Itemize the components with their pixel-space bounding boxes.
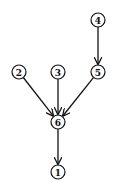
tree-diagram: 423561 <box>0 0 114 182</box>
node-label: 6 <box>55 118 61 128</box>
node-label: 5 <box>95 68 101 78</box>
edge-2-to-6 <box>23 78 53 116</box>
node-1: 1 <box>51 165 65 179</box>
node-label: 2 <box>16 68 22 78</box>
node-label: 4 <box>95 16 101 26</box>
node-3: 3 <box>51 65 65 79</box>
node-5: 5 <box>91 65 105 79</box>
node-4: 4 <box>91 13 105 27</box>
node-label: 1 <box>55 168 61 178</box>
node-label: 3 <box>55 68 61 78</box>
edge-5-to-6 <box>63 77 94 115</box>
node-2: 2 <box>12 65 26 79</box>
node-6: 6 <box>51 115 65 129</box>
edges-group <box>23 27 98 164</box>
